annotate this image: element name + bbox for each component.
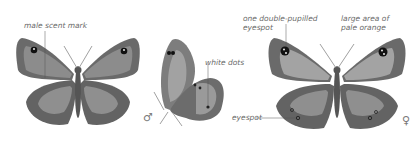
label-pale-orange-line2: pale orange bbox=[341, 23, 386, 32]
female-symbol: ♀ bbox=[402, 114, 410, 127]
label-double-pupilled-line2: eyespot bbox=[243, 23, 273, 32]
female-upperside-butterfly bbox=[256, 24, 406, 129]
label-eyespot: eyespot bbox=[232, 113, 262, 122]
label-double-pupilled-line1: one double-pupilled bbox=[243, 14, 318, 23]
label-pale-orange-line1: large area of bbox=[341, 14, 389, 23]
male-upperside-butterfly bbox=[16, 31, 140, 125]
label-white-dots: white dots bbox=[205, 58, 244, 67]
male-symbol: ♂ bbox=[143, 111, 153, 124]
male-underside-butterfly bbox=[154, 39, 224, 126]
label-male-scent-mark: male scent mark bbox=[24, 21, 87, 30]
